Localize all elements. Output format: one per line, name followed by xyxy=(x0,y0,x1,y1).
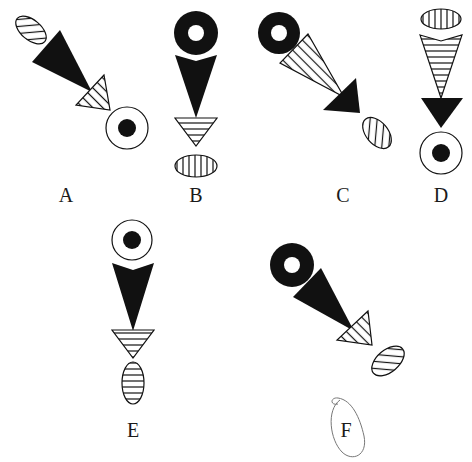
option-label: A xyxy=(59,184,74,206)
option-e[interactable]: E xyxy=(112,220,154,441)
hatched-ellipse-icon xyxy=(11,11,51,49)
center-dot-icon xyxy=(118,119,136,137)
hatched-triangle-icon xyxy=(175,118,217,146)
hatched-ellipse-icon xyxy=(175,155,217,177)
option-d[interactable]: D xyxy=(420,9,463,206)
donut-hole xyxy=(271,25,287,41)
hatched-ellipse-icon xyxy=(366,340,409,381)
hatched-ellipse-icon xyxy=(421,9,461,29)
black-triangle-icon xyxy=(175,55,217,118)
hatched-ellipse-icon xyxy=(122,362,144,404)
option-c[interactable]: C xyxy=(258,12,397,206)
center-dot-icon xyxy=(432,144,450,162)
puzzle-figure: A B C D E xyxy=(0,0,472,462)
option-label: B xyxy=(189,184,202,206)
center-dot-icon xyxy=(123,231,141,249)
option-label: F xyxy=(340,419,351,441)
hatched-ellipse-icon xyxy=(357,112,397,154)
option-label: C xyxy=(336,184,349,206)
hatched-triangle-icon xyxy=(112,330,154,358)
black-triangle-icon xyxy=(112,263,154,331)
option-label: E xyxy=(127,419,139,441)
option-a[interactable]: A xyxy=(11,11,148,206)
option-f[interactable]: F xyxy=(270,243,410,457)
hatched-triangle-icon xyxy=(420,35,462,98)
option-label: D xyxy=(434,184,448,206)
option-b[interactable]: B xyxy=(174,11,218,206)
black-triangle-icon xyxy=(421,98,463,128)
donut-hole xyxy=(188,25,204,41)
donut-hole xyxy=(284,257,300,273)
